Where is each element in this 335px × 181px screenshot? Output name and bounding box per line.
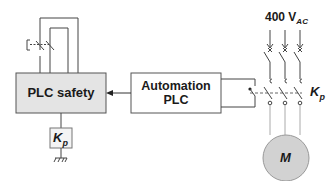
three-phase-supply <box>264 30 303 135</box>
plc-safety-label: PLC safety <box>16 73 106 113</box>
control-arrow <box>106 90 131 96</box>
ground-icon <box>54 158 67 162</box>
automation-plc-label: Automation PLC <box>131 73 221 113</box>
supply-voltage-label: 400 VAC <box>265 10 308 26</box>
motor-label: M <box>280 150 291 165</box>
automation-plc-label-line2: PLC <box>164 93 189 107</box>
kp-coil-label: Kp <box>53 130 68 148</box>
automation-plc-label-line1: Automation <box>141 79 210 93</box>
kp-contactor-label: Kp <box>310 84 325 102</box>
emergency-stop-loops <box>40 18 78 73</box>
contactor-control-lines <box>221 79 255 107</box>
